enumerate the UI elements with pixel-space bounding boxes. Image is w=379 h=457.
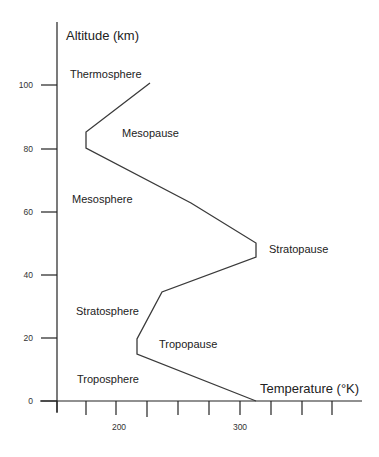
y-tick-100: 100 [19, 80, 33, 90]
label-thermosphere: Thermosphere [70, 68, 142, 80]
label-mesopause: Mesopause [122, 127, 179, 139]
y-tick-40: 40 [24, 270, 34, 280]
y-tick-60: 60 [24, 207, 34, 217]
y-ticks [41, 85, 57, 401]
label-tropopause: Tropopause [159, 338, 217, 350]
x-axis-title: Temperature (°K) [260, 381, 359, 396]
x-tick-300: 300 [233, 422, 247, 432]
y-tick-0: 0 [28, 396, 33, 406]
x-ticks [57, 401, 332, 417]
label-troposphere: Troposphere [77, 373, 139, 385]
label-mesosphere: Mesosphere [72, 193, 133, 205]
y-tick-80: 80 [24, 144, 34, 154]
y-tick-labels: 0 20 40 60 80 100 [19, 80, 33, 406]
y-tick-20: 20 [24, 333, 34, 343]
atmosphere-temperature-chart: 0 20 40 60 80 100 200 300 Altitude (km) … [0, 0, 379, 457]
y-axis-title: Altitude (km) [66, 28, 139, 43]
x-tick-200: 200 [112, 422, 126, 432]
label-stratopause: Stratopause [269, 243, 328, 255]
label-stratosphere: Stratosphere [76, 305, 139, 317]
